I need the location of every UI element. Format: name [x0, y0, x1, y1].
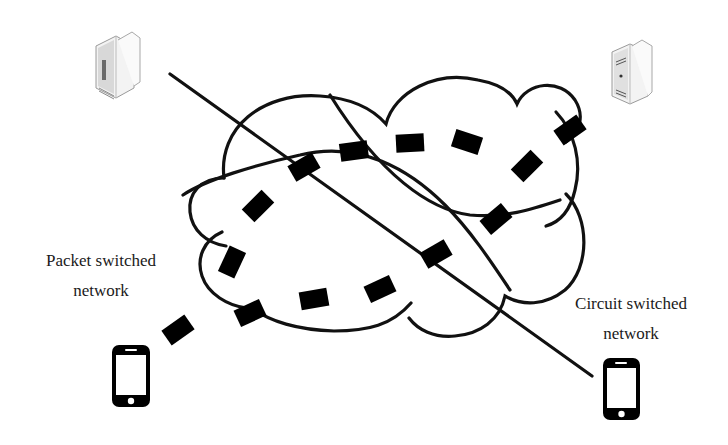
- circuit-label-line1: Circuit switched: [556, 289, 706, 319]
- packet-label-line1: Packet switched: [26, 246, 176, 276]
- packet-label-line2: network: [26, 276, 176, 306]
- packet-switched-label: Packet switched network: [26, 246, 176, 306]
- circuit-switched-label: Circuit switched network: [556, 289, 706, 349]
- network-diagram: [0, 0, 728, 445]
- dashed-path-lower: [234, 203, 513, 327]
- smartphone-icon: [603, 358, 640, 420]
- server-icon: [612, 40, 652, 104]
- server-icon: [96, 32, 140, 99]
- circuit-label-line2: network: [556, 319, 706, 349]
- network-cloud: [183, 78, 584, 337]
- smartphone-icon: [112, 345, 150, 407]
